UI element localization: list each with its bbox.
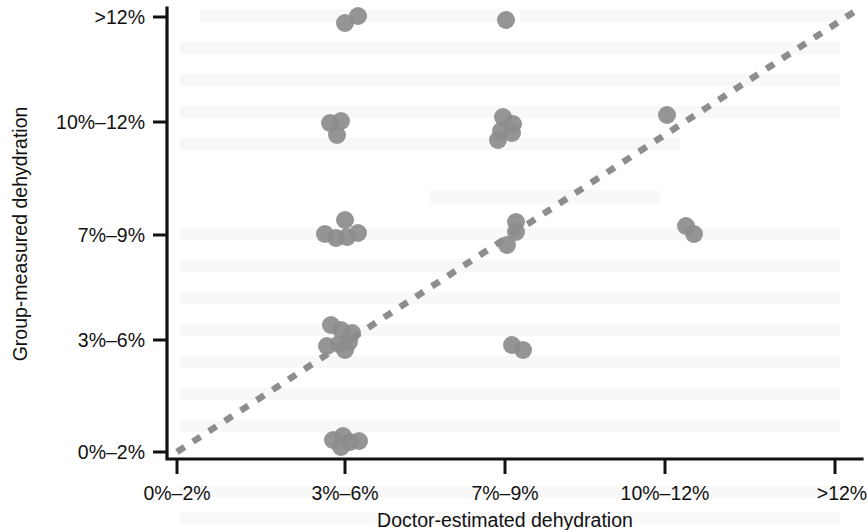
scatter-chart-figure: >12% 10%–12% 7%–9% 3%–6% 0%–2% 0%–2% 3%–… [0, 0, 868, 530]
x-tick-label: 10%–12% [621, 482, 710, 504]
data-point [349, 7, 367, 25]
data-point [489, 131, 507, 149]
data-point [658, 106, 676, 124]
data-point [350, 432, 368, 450]
x-tick-label: >12% [817, 482, 867, 504]
data-point [336, 211, 354, 229]
data-point [332, 438, 350, 456]
y-tick-label: 7%–9% [78, 224, 145, 246]
y-tick-label: 3%–6% [78, 329, 145, 351]
data-point [343, 324, 361, 342]
data-point [514, 341, 532, 359]
data-point [497, 11, 515, 29]
y-axis-tick-labels: >12% 10%–12% 7%–9% 3%–6% 0%–2% [56, 6, 145, 463]
x-tick-label: 3%–6% [311, 482, 378, 504]
data-point [685, 225, 703, 243]
x-tick-label: 0%–2% [143, 482, 210, 504]
x-axis-title: Doctor-estimated dehydration [377, 509, 633, 530]
data-point-layer [316, 7, 703, 456]
data-point [328, 126, 346, 144]
plot-canvas: >12% 10%–12% 7%–9% 3%–6% 0%–2% 0%–2% 3%–… [0, 0, 868, 530]
y-tick-label: 10%–12% [56, 111, 145, 133]
x-axis-tick-labels: 0%–2% 3%–6% 7%–9% 10%–12% >12% [143, 482, 867, 504]
data-point [498, 236, 516, 254]
y-tick-label: 0%–2% [78, 441, 145, 463]
data-point [338, 228, 356, 246]
data-point [336, 341, 354, 359]
y-tick-label: >12% [95, 6, 145, 28]
x-tick-label: 7%–9% [471, 482, 538, 504]
y-axis-title: Group-measured dehydration [9, 107, 31, 362]
x-axis-ticks [177, 459, 835, 474]
y-axis-ticks [153, 17, 167, 452]
